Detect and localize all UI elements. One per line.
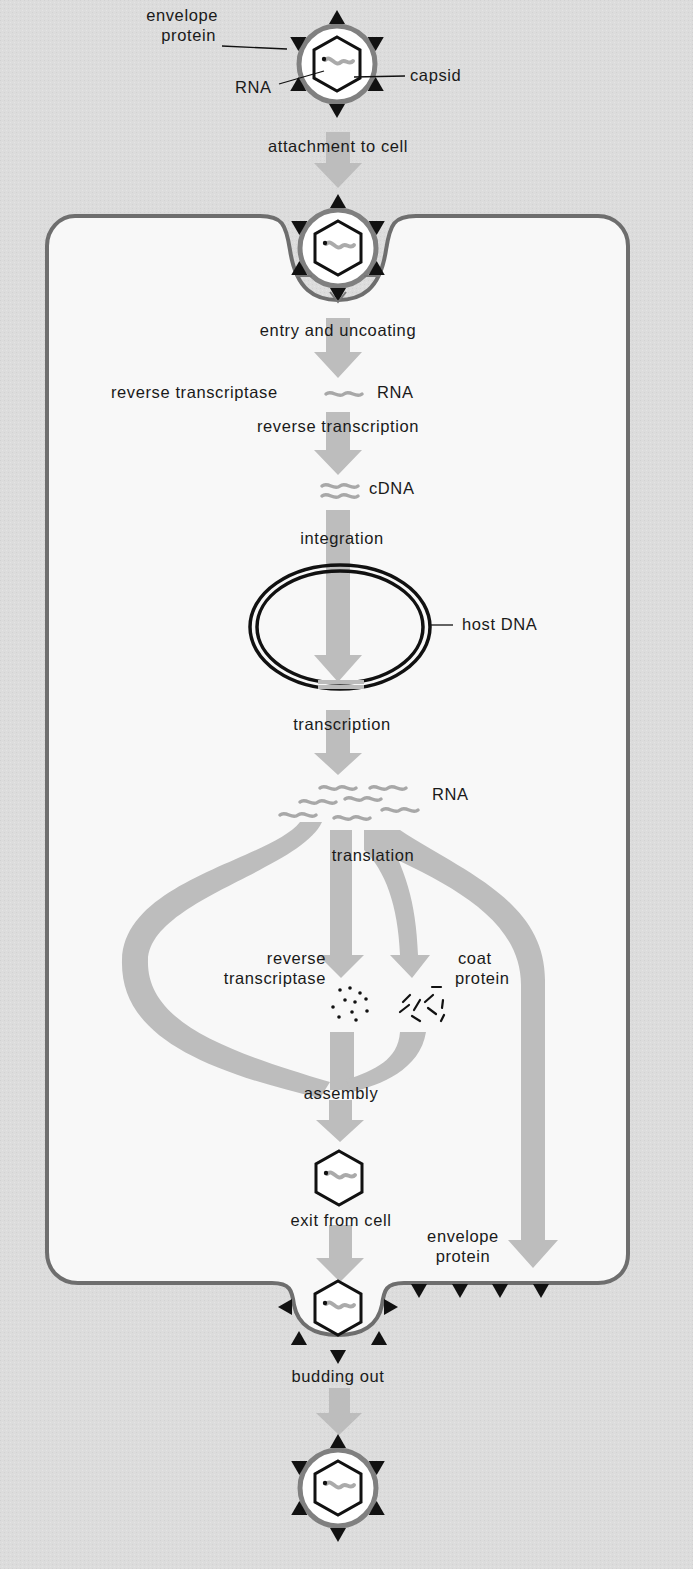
label-host-dna: host DNA: [462, 614, 537, 634]
step-reverse-transcription: reverse transcription: [200, 416, 476, 436]
step-entry-uncoating: entry and uncoating: [200, 320, 476, 340]
step-attachment: attachment to cell: [200, 136, 476, 156]
label-envelope-protein-membrane: envelope protein: [420, 1226, 506, 1266]
step-translation: translation: [230, 845, 516, 865]
diagram-graphics: [0, 0, 693, 1569]
label-coat-protein: coat protein: [455, 948, 510, 988]
step-integration: integration: [200, 528, 484, 548]
label-envelope-protein-top: envelope protein: [120, 5, 218, 45]
label-rna-transcripts: RNA: [432, 784, 469, 804]
step-transcription: transcription: [200, 714, 484, 734]
label-reverse-transcriptase: reverse transcriptase: [111, 382, 278, 402]
step-assembly: assembly: [200, 1083, 482, 1103]
label-cdna: cDNA: [369, 478, 415, 498]
label-rna-top: RNA: [235, 77, 272, 97]
step-budding-out: budding out: [200, 1366, 476, 1386]
assembled-capsid: [316, 1151, 362, 1205]
label-reverse-transcriptase-product: reverse transcriptase: [180, 948, 326, 988]
retrovirus-life-cycle-diagram: envelope protein RNA capsid attachment t…: [0, 0, 693, 1569]
label-capsid: capsid: [410, 65, 461, 85]
label-rna-genome: RNA: [377, 382, 414, 402]
